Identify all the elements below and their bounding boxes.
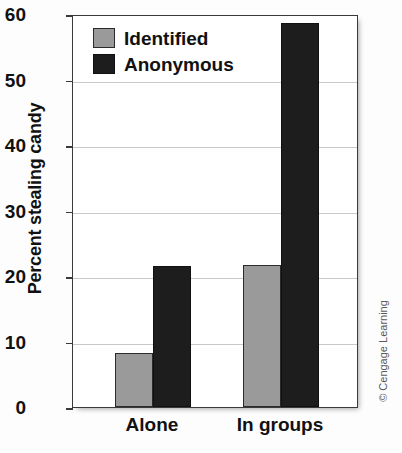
legend-label-identified: Identified <box>124 29 208 48</box>
y-axis-tick-30: 30 <box>0 202 26 221</box>
legend-item-anonymous: Anonymous <box>93 54 234 74</box>
y-axis-tick-0: 0 <box>0 398 26 417</box>
bar-chart-figure: Percent stealing candy 0102030405060 Ide… <box>0 0 402 453</box>
y-axis-tick-50: 50 <box>0 71 26 90</box>
legend-swatch-anonymous <box>93 54 115 74</box>
copyright-credit: © Cengage Learning <box>377 271 389 431</box>
legend-label-anonymous: Anonymous <box>124 55 234 74</box>
y-axis-tick-40: 40 <box>0 136 26 155</box>
bar-alone-anonymous <box>153 266 191 407</box>
x-axis-tick-in-groups: In groups <box>210 414 350 436</box>
x-axis-tick-alone: Alone <box>82 414 222 436</box>
bar-in-groups-identified <box>243 265 281 407</box>
y-axis-tick-20: 20 <box>0 267 26 286</box>
y-axis-tick-60: 60 <box>0 5 26 24</box>
chart-legend: Identified Anonymous <box>93 28 234 74</box>
y-axis-tick-10: 10 <box>0 333 26 352</box>
y-tick-mark <box>66 408 73 410</box>
bar-in-groups-anonymous <box>281 23 319 407</box>
plot-area: Identified Anonymous <box>72 15 358 408</box>
legend-item-identified: Identified <box>93 28 234 48</box>
bar-alone-identified <box>115 353 153 407</box>
y-axis-title: Percent stealing candy <box>25 69 46 329</box>
legend-swatch-identified <box>93 28 115 48</box>
